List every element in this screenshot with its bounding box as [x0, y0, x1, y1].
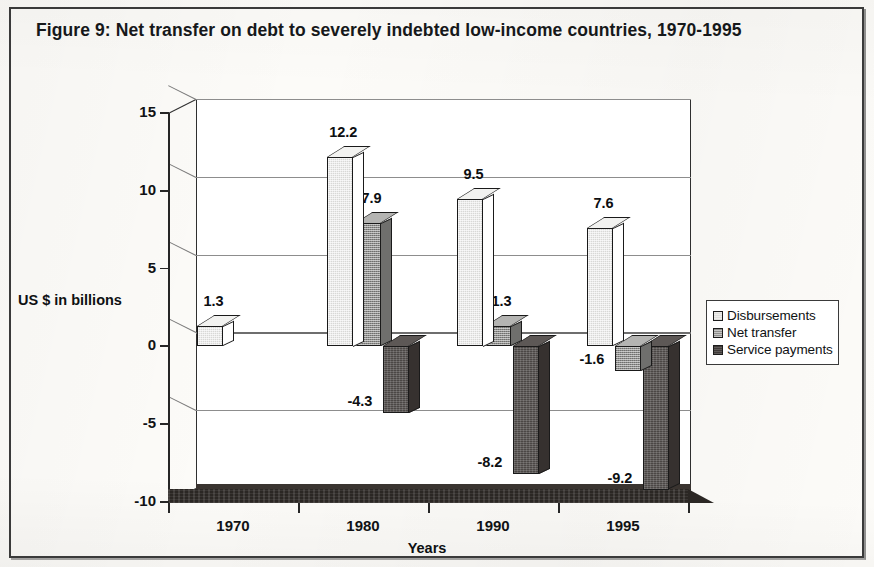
y-axis-tick-mark	[160, 190, 169, 192]
data-label: 7.6	[593, 195, 613, 211]
x-axis-tick-label: 1970	[216, 517, 249, 534]
legend-swatch-icon	[713, 311, 723, 321]
gridline	[196, 410, 691, 411]
chart-legend: Disbursements Net transfer Service payme…	[706, 300, 839, 365]
data-label: -4.3	[347, 393, 372, 409]
bar-side-face	[409, 341, 420, 413]
bar-disbursements-1990	[457, 199, 483, 347]
data-label: -9.2	[607, 470, 632, 486]
data-label: 1.3	[203, 293, 223, 309]
legend-item-service-payments: Service payments	[713, 342, 833, 357]
x-axis-tick-mark	[168, 503, 170, 513]
y-axis-tick-label: 5	[148, 259, 156, 276]
y-axis-line	[168, 113, 170, 502]
x-axis-tick-label: 1980	[346, 517, 379, 534]
x-axis-tick-mark	[688, 503, 690, 513]
legend-label: Net transfer	[727, 325, 796, 340]
x-axis-tick-label: 1990	[476, 517, 509, 534]
gridline	[196, 99, 691, 100]
y-axis-tick-mark	[160, 423, 169, 425]
legend-swatch-icon	[713, 328, 723, 338]
bar-disbursements-1980	[327, 157, 353, 347]
x-axis-tick-label: 1995	[606, 517, 639, 534]
x-axis-tick-marks	[0, 503, 874, 515]
bar-side-face	[669, 341, 680, 490]
y-axis-tick-labels: 151050-5-10	[92, 0, 156, 567]
x-axis-tick-mark	[558, 503, 560, 513]
data-label: -1.6	[579, 351, 604, 367]
bar-side-face	[353, 151, 364, 346]
bar-front-face	[197, 326, 223, 346]
legend-item-disbursements: Disbursements	[713, 308, 833, 323]
bar-front-face	[615, 346, 641, 371]
y-axis-tick-mark	[160, 268, 169, 270]
bar-front-face	[513, 346, 539, 474]
bar-service-payments-1990	[513, 346, 539, 474]
legend-swatch-icon	[713, 345, 723, 355]
bar-net-transfer-1995	[615, 346, 641, 371]
legend-item-net-transfer: Net transfer	[713, 325, 833, 340]
data-label: 9.5	[463, 166, 483, 182]
y-axis-tick-label: -5	[143, 414, 156, 431]
chart-floor-corner	[688, 489, 714, 503]
y-axis-tick-label: 0	[148, 336, 156, 353]
bar-front-face	[587, 228, 613, 346]
data-label: 1.3	[491, 293, 511, 309]
y-axis-tick-label: 10	[139, 181, 156, 198]
bar-side-face	[381, 218, 392, 346]
y-axis-title: US $ in billions	[18, 292, 122, 308]
bar-disbursements-1995	[587, 228, 613, 346]
x-axis-tick-mark	[428, 503, 430, 513]
bar-front-face	[457, 199, 483, 347]
bar-service-payments-1980	[383, 346, 409, 413]
gridline	[196, 177, 691, 178]
x-axis-tick-mark	[298, 503, 300, 513]
y-axis-tick-label: 15	[139, 103, 156, 120]
x-axis-title-text: Years	[408, 540, 447, 556]
x-axis-title: Years	[0, 540, 874, 556]
bar-disbursements-1970	[197, 326, 223, 346]
legend-label: Service payments	[727, 342, 833, 357]
chart-floor	[168, 489, 691, 503]
y-axis-tick-mark	[160, 345, 169, 347]
y-axis-tick-mark	[160, 112, 169, 114]
bar-front-face	[383, 346, 409, 413]
bar-side-face	[483, 193, 494, 346]
data-label: 12.2	[329, 124, 357, 140]
data-label: -8.2	[477, 454, 502, 470]
bar-front-face	[327, 157, 353, 347]
figure-page: Figure 9: Net transfer on debt to severe…	[0, 0, 874, 567]
bar-side-face	[613, 223, 624, 347]
bar-side-face	[539, 341, 550, 474]
data-label: 7.9	[361, 190, 381, 206]
legend-label: Disbursements	[727, 308, 816, 323]
